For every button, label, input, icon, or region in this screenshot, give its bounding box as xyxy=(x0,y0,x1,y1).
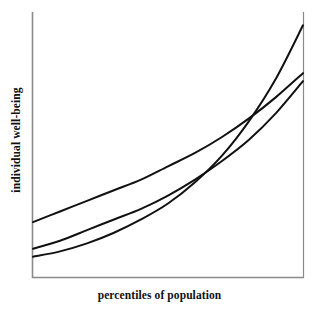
x-axis-label: percentiles of population xyxy=(0,288,319,302)
plot-area xyxy=(0,0,319,313)
curve-middle xyxy=(33,81,303,249)
y-axis-label-container: individual well-being xyxy=(0,0,32,280)
curve-steepest xyxy=(33,25,303,256)
chart-figure: individual well-being percentiles of pop… xyxy=(0,0,319,313)
y-axis-label: individual well-being xyxy=(9,87,23,192)
curve-flattest xyxy=(33,73,303,222)
